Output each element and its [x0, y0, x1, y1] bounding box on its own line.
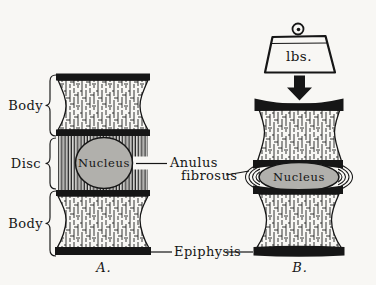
disc-label: Disc — [11, 156, 41, 171]
body-top-brace — [46, 75, 57, 136]
nucleus-b-label: Nucleus — [273, 170, 325, 184]
body-bottom-label: Body — [8, 216, 43, 231]
diagram-canvas: Body Disc Body Nucleus A. Anulus fibrosu… — [0, 0, 376, 285]
figure-b: lbs. Nucleus B. — [246, 24, 353, 276]
weight-label: lbs. — [286, 48, 312, 64]
figure-a-caption: A. — [95, 260, 112, 275]
vertebral-body-upper-b — [257, 104, 342, 161]
vertebral-body-lower-a — [57, 196, 149, 248]
weight-icon: lbs. — [265, 24, 335, 73]
epiphysis-plate-b — [254, 246, 345, 257]
body-bottom-brace — [46, 191, 57, 256]
disc-brace — [46, 138, 57, 189]
body-top-label: Body — [8, 98, 43, 113]
figure-a: Body Disc Body Nucleus A. — [8, 74, 151, 276]
intervertebral-disc-diagram: Body Disc Body Nucleus A. Anulus fibrosu… — [0, 0, 376, 285]
vertebral-body-upper-a — [58, 80, 148, 130]
endplate-top-a — [56, 74, 150, 81]
epiphysis-plate-a — [55, 247, 151, 255]
figure-b-caption: B. — [291, 260, 308, 275]
weight-handle-dot — [297, 28, 301, 32]
down-arrow-icon — [287, 76, 312, 101]
endplate-a3 — [56, 190, 150, 196]
weight-top-line — [271, 43, 328, 44]
endplate-top-b — [255, 99, 344, 112]
annotations: Anulus fibrosus Epiphysis — [136, 155, 253, 259]
nucleus-a-label: Nucleus — [78, 156, 130, 170]
vertebral-body-lower-b — [257, 194, 342, 248]
endplate-a2 — [56, 130, 150, 137]
anulus-label-line2: fibrosus — [181, 168, 237, 183]
